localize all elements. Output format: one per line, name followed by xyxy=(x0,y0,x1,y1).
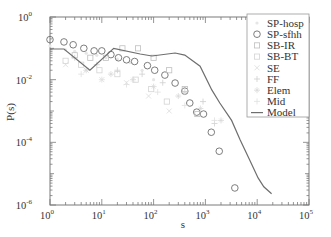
legend-label: SP-sfhh xyxy=(267,28,302,40)
x-tick-label: 103 xyxy=(195,208,210,221)
legend-label: FF xyxy=(267,73,279,85)
x-tick-label: 100 xyxy=(40,208,55,221)
x-axis-label: s xyxy=(181,218,185,230)
chart: 100101102103104105 10010-210-410-6 s P(s… xyxy=(0,0,331,237)
legend-label: SB-BT xyxy=(267,50,298,62)
legend-label: Model xyxy=(267,106,296,118)
series-elem xyxy=(83,67,224,123)
x-tick-label: 105 xyxy=(299,208,314,221)
x-tick-label: 104 xyxy=(247,208,262,221)
y-tick-label: 100 xyxy=(18,10,33,23)
x-tick-label: 101 xyxy=(92,208,107,221)
x-tick-labels: 100101102103104105 xyxy=(40,208,314,221)
x-tick-label: 102 xyxy=(144,208,159,221)
legend-label: SB-IR xyxy=(267,39,296,51)
legend: SP-hospSP-sfhhSB-IRSB-BTSEFFElemMidModel xyxy=(247,14,309,118)
y-tick-labels: 10010-210-410-6 xyxy=(16,10,33,211)
legend-label: Mid xyxy=(267,95,286,107)
y-axis-label: P(s) xyxy=(4,103,17,121)
legend-label: Elem xyxy=(267,84,291,96)
y-tick-label: 10-4 xyxy=(16,135,33,148)
legend-label: SE xyxy=(267,62,280,74)
data-series xyxy=(47,36,272,193)
series-sp-sfhh xyxy=(47,36,238,191)
y-tick-label: 10-6 xyxy=(16,198,33,211)
series-sb-ir xyxy=(72,46,200,117)
y-tick-label: 10-2 xyxy=(16,73,33,86)
legend-label: SP-hosp xyxy=(267,17,304,29)
